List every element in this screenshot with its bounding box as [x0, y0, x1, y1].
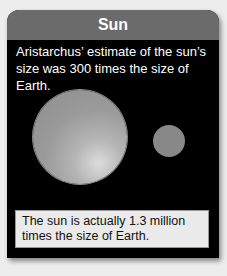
earth-illustration	[153, 125, 185, 157]
sun-illustration	[33, 90, 127, 184]
card-title: Sun	[7, 10, 219, 40]
info-card: Sun Aristarchus’ estimate of the sun’s s…	[7, 10, 219, 258]
caption-box: The sun is actually 1.3 million times th…	[15, 210, 209, 248]
intro-text: Aristarchus’ estimate of the sun’s size …	[16, 43, 216, 94]
